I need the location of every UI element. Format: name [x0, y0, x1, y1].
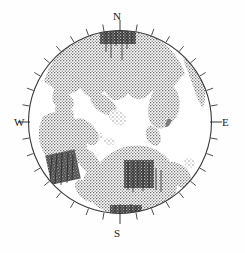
graticule-tick-50: [190, 58, 195, 63]
graticule-tick-140: [179, 192, 184, 197]
graticule-tick-60: [200, 73, 206, 77]
graticule-tick-40: [179, 46, 184, 51]
graticule-tick-120: [200, 168, 206, 172]
cardinal-label-north: N: [113, 11, 121, 22]
graticule-tick-130: [190, 181, 195, 186]
graticule-tick-20: [151, 29, 153, 36]
cardinal-label-south: S: [114, 228, 120, 239]
graticule-tick-290: [27, 88, 34, 90]
graticule-tick-210: [71, 202, 75, 208]
graticule-tick-250: [27, 153, 34, 155]
graticule-tick-310: [44, 58, 49, 63]
graticule-tick-350: [103, 25, 104, 32]
graticule-tick-190: [103, 213, 104, 220]
graticule-tick-170: [136, 213, 137, 220]
stereographic-projection: [0, 0, 245, 253]
graticule-tick-110: [206, 153, 213, 155]
land-south-central-dense-patch: [124, 160, 154, 188]
graticule-tick-160: [151, 208, 153, 215]
graticule-tick-10: [136, 25, 137, 32]
map-figure: N S W E: [0, 0, 245, 253]
graticule-tick-150: [166, 202, 170, 208]
graticule-tick-70: [206, 88, 213, 90]
graticule-tick-330: [71, 36, 75, 42]
land-sw-limb-islet: [59, 196, 66, 202]
graticule-tick-230: [44, 181, 49, 186]
graticule-tick-30: [166, 36, 170, 42]
graticule-tick-280: [23, 105, 30, 106]
cardinal-label-west: W: [14, 117, 24, 128]
graticule-tick-80: [211, 105, 218, 106]
graticule-tick-340: [86, 29, 88, 36]
cardinal-label-east: E: [222, 117, 229, 128]
graticule-tick-200: [86, 208, 88, 215]
graticule-tick-240: [34, 168, 40, 172]
graticule-tick-320: [56, 46, 61, 51]
graticule-tick-100: [211, 138, 218, 139]
graticule-tick-220: [56, 192, 61, 197]
graticule-tick-300: [34, 73, 40, 77]
graticule-tick-260: [23, 138, 30, 139]
